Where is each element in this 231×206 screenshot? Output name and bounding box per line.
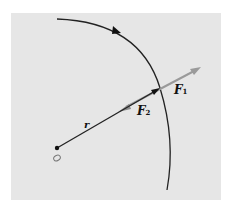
diagram-canvas	[0, 0, 231, 206]
center-point	[55, 146, 59, 150]
label-r: r	[84, 119, 89, 131]
radius-vector	[57, 90, 157, 148]
label-f1-sub: 1	[183, 87, 188, 96]
orbit-arc	[57, 19, 170, 190]
label-f2: F2	[137, 105, 150, 119]
f1-arrowhead-icon	[190, 67, 201, 75]
arc-direction-arrow-icon	[112, 26, 121, 34]
label-f1-main: F	[174, 83, 183, 97]
label-f2-main: F	[137, 104, 146, 118]
origin-symbol-icon	[53, 154, 62, 162]
label-f1: F1	[174, 84, 187, 98]
label-f2-sub: 2	[146, 108, 151, 117]
